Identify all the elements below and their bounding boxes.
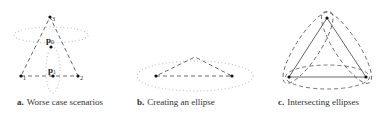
- vertex-right: [364, 75, 367, 78]
- caption-a: a.Worse case scenarios: [17, 97, 103, 107]
- caption-letter-c: c.: [278, 97, 284, 107]
- caption-letter-a: a.: [17, 97, 24, 107]
- caption-text-a: Worse case scenarios: [27, 97, 103, 107]
- vertex-left: [154, 74, 157, 77]
- caption-letter-b: b.: [137, 97, 144, 107]
- point-label-p1: p1: [48, 65, 56, 75]
- vertex-right: [230, 74, 233, 77]
- dashed-triangle: [156, 57, 232, 76]
- vertex-label-1: 1: [23, 75, 26, 81]
- vertex-label-3: 3: [52, 16, 55, 22]
- vertex-top: [325, 16, 328, 19]
- panel-c-diagram: [275, 6, 379, 90]
- panel-b-diagram: [137, 57, 253, 91]
- point-label-p0: p0: [46, 35, 54, 45]
- vertex-label-2: 2: [80, 75, 83, 81]
- caption-text-b: Creating an ellipse: [147, 97, 214, 107]
- panel-a-diagram: 1 2 3 p0 p1: [14, 15, 88, 93]
- point-p0: [49, 45, 52, 48]
- caption-b: b.Creating an ellipse: [137, 97, 215, 107]
- caption-text-c: Intersecting ellipses: [287, 97, 359, 107]
- vertex-left: [287, 75, 290, 78]
- caption-c: c.Intersecting ellipses: [278, 97, 359, 107]
